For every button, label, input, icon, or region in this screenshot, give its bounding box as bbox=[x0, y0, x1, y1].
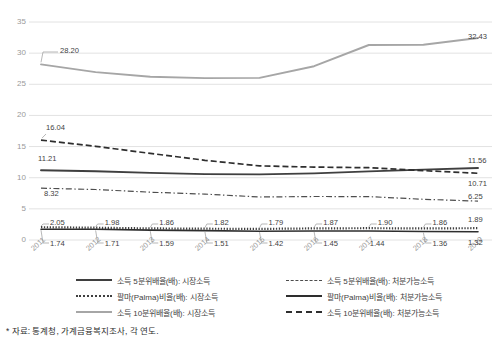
legend-column-left: 소득 5분위배율(배): 시장소득 팔마(Palma)비율(배): 시장소득 소… bbox=[0, 272, 278, 320]
gridlines bbox=[29, 22, 492, 240]
data-label-palma-disp-2014: 1.51 bbox=[214, 240, 229, 248]
data-label-palma-disp-2011: 1.74 bbox=[50, 240, 65, 248]
legend-label-1: 팔마(Palma)비율(배): 시장소득 bbox=[117, 291, 218, 302]
legend-key-dash-dot-icon bbox=[286, 280, 322, 281]
legend-label-3: 소득 5분위배율(배): 처분가능소득 bbox=[327, 275, 434, 286]
y-axis-tick-15: 15 bbox=[0, 143, 26, 151]
data-label-palma-market-2019: 1.89 bbox=[468, 216, 483, 224]
y-axis-tick-20: 20 bbox=[0, 111, 26, 119]
data-label-solid-2011: 11.21 bbox=[38, 155, 56, 163]
data-label-palma-market-2018: 1.86 bbox=[432, 219, 447, 227]
legend-key-solid-thin-dark-icon bbox=[286, 295, 322, 297]
data-label-dashed-2019: 10.71 bbox=[468, 180, 487, 188]
legend-label-0: 소득 5분위배율(배): 시장소득 bbox=[117, 275, 210, 286]
data-label-palma-disp-2019: 1.32 bbox=[468, 239, 483, 247]
legend-item-2[interactable]: 소득 10분위배율(배): 시장소득 bbox=[0, 304, 278, 320]
legend-label-2: 소득 10분위배율(배): 시장소득 bbox=[117, 307, 215, 318]
legend-label-5: 소득 10분위배율(배): 처분가능소득 bbox=[327, 307, 439, 318]
y-axis-tick-25: 25 bbox=[0, 80, 26, 88]
series-line-5 bbox=[41, 140, 478, 173]
data-label-dashdot-2011: 8.32 bbox=[44, 190, 59, 198]
data-label-palma-market-2013: 1.86 bbox=[159, 219, 174, 227]
y-axis-tick-30: 30 bbox=[0, 49, 26, 57]
data-label-palma-market-2015: 1.79 bbox=[269, 219, 284, 227]
source-note: * 자료: 통계청, 가계금융복지조사, 각 연도. bbox=[6, 324, 159, 336]
data-label-palma-disp-2016: 1.45 bbox=[323, 240, 338, 248]
data-label-palma-market-2016: 1.87 bbox=[323, 219, 338, 227]
data-label-palma-disp-2017: 1.44 bbox=[370, 240, 385, 248]
chart-legend: 소득 5분위배율(배): 시장소득 팔마(Palma)비율(배): 시장소득 소… bbox=[0, 272, 504, 320]
chart-plot-area: 35302520151050 2011201220132014201520162… bbox=[0, 0, 504, 268]
legend-item-0[interactable]: 소득 5분위배율(배): 시장소득 bbox=[0, 272, 278, 288]
series-line-1 bbox=[41, 188, 478, 201]
data-label-palma-disp-2012: 1.71 bbox=[105, 240, 120, 248]
data-label-dashdot-2019: 6.25 bbox=[468, 193, 483, 201]
legend-item-5[interactable]: 소득 10분위배율(배): 처분가능소득 bbox=[278, 304, 504, 320]
series-line-4 bbox=[41, 38, 478, 78]
y-axis-tick-10: 10 bbox=[0, 174, 26, 182]
legend-item-1[interactable]: 팔마(Palma)비율(배): 시장소득 bbox=[0, 288, 278, 304]
data-label-solid-2019: 11.56 bbox=[468, 157, 486, 165]
data-label-grey-2019: 32.43 bbox=[468, 33, 487, 41]
data-label-palma-disp-2018: 1.36 bbox=[432, 240, 447, 248]
y-axis-tick-5: 5 bbox=[0, 205, 26, 213]
data-label-grey-2011: 28.20 bbox=[60, 47, 79, 55]
legend-key-dashed-icon bbox=[286, 311, 322, 313]
data-label-dashed-2011: 16.04 bbox=[46, 124, 65, 132]
data-label-palma-disp-2013: 1.59 bbox=[159, 240, 174, 248]
legend-key-solid-thick-dark-icon bbox=[76, 279, 112, 281]
legend-label-4: 팔마(Palma)비율(배): 처분가능소득 bbox=[327, 291, 442, 302]
legend-column-right: 소득 5분위배율(배): 처분가능소득 팔마(Palma)비율(배): 처분가능… bbox=[278, 272, 504, 320]
y-axis-tick-35: 35 bbox=[0, 18, 26, 26]
legend-key-solid-grey-icon bbox=[76, 311, 112, 313]
data-label-palma-market-2011: 2.05 bbox=[50, 219, 65, 227]
series-line-0 bbox=[41, 168, 478, 174]
y-axis-tick-0: 0 bbox=[0, 236, 26, 244]
legend-item-3[interactable]: 소득 5분위배율(배): 처분가능소득 bbox=[278, 272, 504, 288]
data-label-palma-market-2012: 1.98 bbox=[105, 219, 120, 227]
series-lines bbox=[41, 38, 478, 232]
data-label-palma-market-2017: 1.90 bbox=[378, 219, 393, 227]
legend-key-dotted-thick-icon bbox=[76, 295, 112, 297]
line-chart-svg bbox=[0, 0, 504, 268]
data-label-palma-disp-2015: 1.42 bbox=[269, 240, 284, 248]
legend-item-4[interactable]: 팔마(Palma)비율(배): 처분가능소득 bbox=[278, 288, 504, 304]
data-label-palma-market-2014: 1.82 bbox=[214, 219, 229, 227]
